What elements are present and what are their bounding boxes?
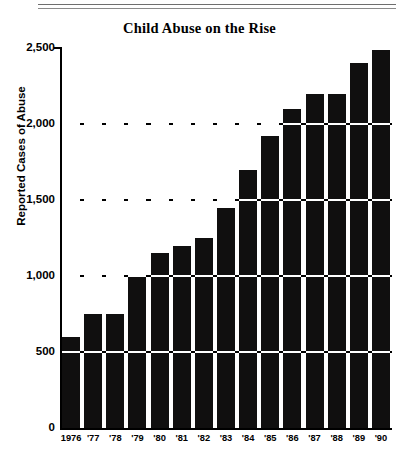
y-tick-label: 1,500 <box>3 193 55 205</box>
gridline-1000 <box>60 275 392 277</box>
gridline-segment <box>191 275 195 276</box>
gridline-segment <box>80 275 84 276</box>
top-rule-secondary <box>38 8 396 9</box>
gridline-segment <box>102 199 106 200</box>
y-tick-label: 500 <box>3 345 55 357</box>
y-tick-label: 2,500 <box>3 41 55 53</box>
bar <box>261 136 279 428</box>
gridline-segment <box>60 123 62 124</box>
gridline-segment <box>346 123 350 124</box>
gridline-segment <box>301 275 305 276</box>
gridline-segment <box>235 351 239 352</box>
y-axis-tick <box>54 47 60 48</box>
gridline-segment <box>213 123 217 124</box>
gridline-segment <box>257 123 261 124</box>
gridline-segment <box>324 351 328 352</box>
gridline-segment <box>124 123 128 124</box>
bar <box>306 94 324 428</box>
gridline-segment <box>213 199 217 200</box>
gridline-segment <box>257 275 261 276</box>
gridline-segment <box>146 275 150 276</box>
bar <box>283 109 301 428</box>
gridline-segment <box>146 351 150 352</box>
x-tick-label: '90 <box>366 433 396 443</box>
y-tick-label: 2,000 <box>3 117 55 129</box>
bar <box>372 50 390 428</box>
y-axis-title: Reported Cases of Abuse <box>15 56 27 256</box>
gridline-segment <box>279 199 283 200</box>
gridline-segment <box>146 123 150 124</box>
chart-title: Child Abuse on the Rise <box>0 20 399 37</box>
gridline-segment <box>368 199 372 200</box>
gridline-segment <box>279 351 283 352</box>
bar <box>239 170 257 428</box>
gridline-segment <box>191 351 195 352</box>
gridline-segment <box>80 199 84 200</box>
gridline-segment <box>324 123 328 124</box>
gridline-segment <box>169 275 173 276</box>
gridline-500 <box>60 351 392 353</box>
gridline-segment <box>235 123 239 124</box>
gridline-1500 <box>60 199 392 201</box>
gridline-segment <box>169 351 173 352</box>
gridline-segment <box>124 275 128 276</box>
gridline-segment <box>146 199 150 200</box>
footnote-text <box>6 452 392 461</box>
gridline-segment <box>124 351 128 352</box>
gridline-segment <box>390 351 392 352</box>
gridline-segment <box>368 123 372 124</box>
bar <box>173 246 191 428</box>
gridline-segment <box>191 123 195 124</box>
bar <box>328 94 346 428</box>
gridline-segment <box>213 351 217 352</box>
gridline-segment <box>368 351 372 352</box>
gridline-segment <box>235 199 239 200</box>
gridline-segment <box>80 123 84 124</box>
bar <box>217 208 235 428</box>
plot-area <box>60 48 392 428</box>
bar <box>195 238 213 428</box>
top-rule-primary <box>38 4 396 5</box>
gridline-segment <box>191 199 195 200</box>
chart-figure: Child Abuse on the Rise Reported Cases o… <box>0 0 399 462</box>
bar <box>350 63 368 428</box>
gridline-segment <box>257 199 261 200</box>
gridline-segment <box>346 275 350 276</box>
gridline-segment <box>301 351 305 352</box>
gridline-segment <box>102 123 106 124</box>
bar <box>151 253 169 428</box>
gridline-segment <box>235 275 239 276</box>
gridline-segment <box>102 275 106 276</box>
gridline-segment <box>346 351 350 352</box>
gridline-segment <box>102 351 106 352</box>
y-tick-label: 1,000 <box>3 269 55 281</box>
gridline-segment <box>60 275 62 276</box>
gridline-segment <box>279 123 283 124</box>
gridline-segment <box>301 199 305 200</box>
gridline-segment <box>124 199 128 200</box>
gridline-segment <box>324 275 328 276</box>
gridline-segment <box>346 199 350 200</box>
gridline-segment <box>60 199 62 200</box>
gridline-segment <box>169 199 173 200</box>
gridline-segment <box>390 199 392 200</box>
gridline-segment <box>80 351 84 352</box>
bar <box>84 314 102 428</box>
gridline-segment <box>213 275 217 276</box>
gridline-segment <box>257 351 261 352</box>
y-tick-label: 0 <box>3 421 55 433</box>
gridline-segment <box>169 123 173 124</box>
gridline-segment <box>279 275 283 276</box>
gridline-segment <box>390 275 392 276</box>
gridline-segment <box>324 199 328 200</box>
gridline-2000 <box>60 123 392 125</box>
gridline-segment <box>60 351 62 352</box>
gridline-segment <box>390 123 392 124</box>
gridline-segment <box>301 123 305 124</box>
gridline-segment <box>368 275 372 276</box>
bar <box>106 314 124 428</box>
x-axis-line <box>60 428 392 430</box>
